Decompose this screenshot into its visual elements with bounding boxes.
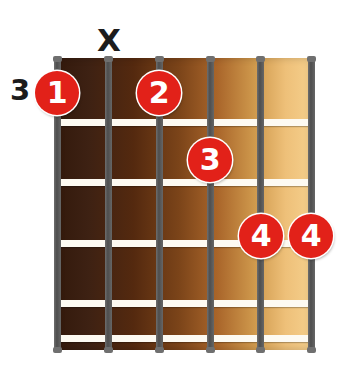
finger-dot-2-label: 2 [149, 78, 169, 108]
string-4-bottom-cap [206, 347, 215, 353]
finger-dot-1-label: 1 [47, 78, 67, 108]
string-2 [105, 57, 112, 352]
finger-dot-4-label: 4 [251, 221, 271, 251]
string-1-bottom-cap [53, 347, 62, 353]
finger-dot-3-label: 3 [200, 145, 220, 175]
starting-fret-label: 3 [10, 76, 30, 105]
finger-dot-4[interactable]: 4 [239, 214, 283, 258]
string-5 [257, 57, 264, 352]
finger-dot-5-label: 4 [301, 221, 321, 251]
finger-dot-5[interactable]: 4 [289, 214, 333, 258]
string-3-bottom-cap [155, 347, 164, 353]
string-4 [207, 57, 214, 352]
finger-dot-2[interactable]: 2 [137, 71, 181, 115]
string-5-top-cap [256, 56, 265, 62]
chord-diagram: 3 X 12344 [0, 0, 353, 373]
string-2-bottom-cap [104, 347, 113, 353]
finger-dot-3[interactable]: 3 [188, 138, 232, 182]
mute-marker-string-2: X [97, 25, 121, 56]
string-6 [308, 57, 315, 352]
fret-line-2 [57, 179, 311, 186]
fret-line-4 [57, 300, 311, 307]
fret-line-1 [57, 119, 311, 126]
string-4-top-cap [206, 56, 215, 62]
string-3-top-cap [155, 56, 164, 62]
string-6-bottom-cap [307, 347, 316, 353]
string-1-top-cap [53, 56, 62, 62]
finger-dot-1[interactable]: 1 [35, 71, 79, 115]
string-6-top-cap [307, 56, 316, 62]
string-5-bottom-cap [256, 347, 265, 353]
fret-line-5 [57, 335, 311, 342]
